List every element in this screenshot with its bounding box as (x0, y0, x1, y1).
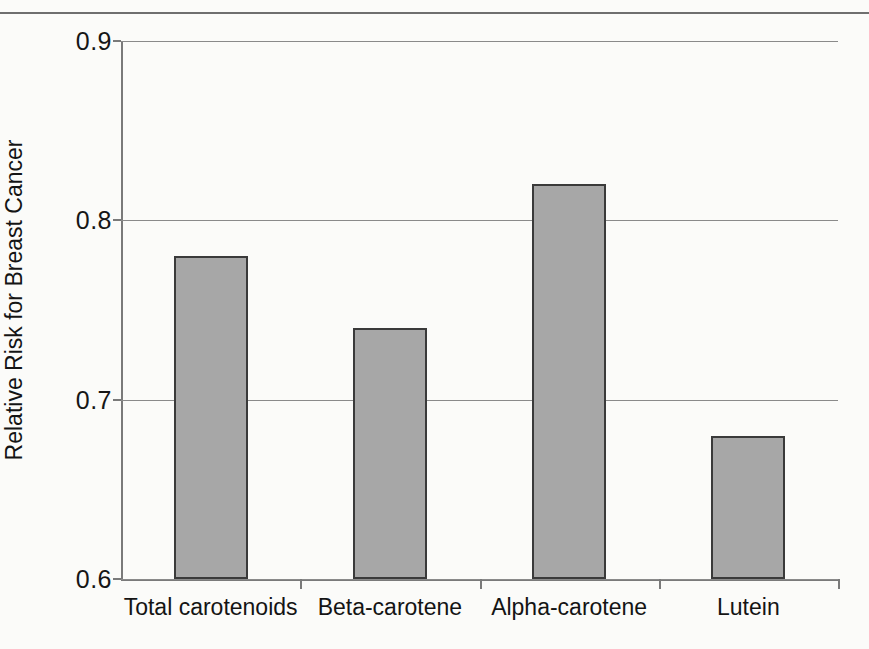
y-axis-tick (113, 578, 121, 580)
bar (532, 184, 606, 579)
bar-chart-figure: Relative Risk for Breast Cancer 0.60.70.… (0, 0, 869, 649)
y-axis-tick-label: 0.7 (76, 385, 112, 414)
x-axis-tick-label: Beta-carotene (318, 594, 462, 621)
y-axis-title: Relative Risk for Breast Cancer (1, 140, 28, 461)
x-axis-tick (480, 579, 482, 589)
x-axis-tick (838, 579, 840, 589)
x-axis-tick-label: Total carotenoids (124, 594, 298, 621)
y-axis-tick (113, 219, 121, 221)
y-axis-tick-label: 0.6 (76, 565, 112, 594)
x-axis-tick (659, 579, 661, 589)
y-axis-tick-label: 0.9 (76, 27, 112, 56)
x-axis-tick (300, 579, 302, 589)
y-axis-tick-label: 0.8 (76, 206, 112, 235)
y-axis-tick (113, 399, 121, 401)
x-axis-tick-label: Alpha-carotene (491, 594, 647, 621)
gridline (121, 41, 838, 42)
gridline (121, 220, 838, 221)
bar (174, 256, 248, 579)
x-axis-tick-label: Lutein (717, 594, 780, 621)
bar (711, 436, 785, 579)
bar (353, 328, 427, 579)
y-axis-tick (113, 40, 121, 42)
